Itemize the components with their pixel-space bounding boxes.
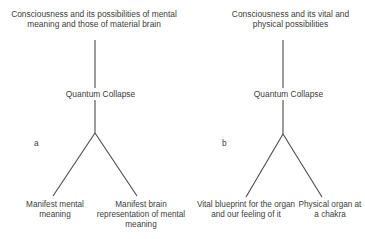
panel-b-node-label: Quantum Collapse [243, 88, 334, 100]
panel-a-leaf-left: Manifest mental meaning [10, 200, 100, 220]
figure-canvas: Consciousness and its possibilities of m… [0, 0, 365, 239]
panel-a-leaf-right: Manifest brain representation of mental … [95, 200, 187, 230]
panel-a-root-label: Consciousness and its possibilities of m… [8, 9, 180, 30]
panel-b-branch-left [246, 134, 283, 197]
panel-b-root-label: Consciousness and its vital and physical… [218, 9, 363, 30]
panel-b-letter: b [222, 138, 227, 148]
panel-b-leaf-left: Vital blueprint for the organ and our fe… [190, 200, 302, 220]
panel-a-branch-right [95, 133, 137, 196]
panel-a-letter: a [34, 138, 39, 148]
panel-a-node-label: Quantum Collapse [55, 88, 146, 100]
panel-b-branch-right [283, 134, 322, 197]
panel-b-leaf-right: Physical organ at a chakra [296, 200, 364, 220]
panel-a-branch-left [53, 133, 95, 196]
